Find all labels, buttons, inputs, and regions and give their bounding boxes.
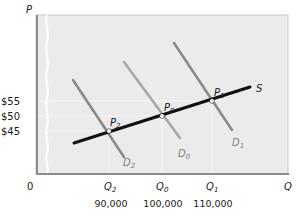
x-tick-q0: Q0 <box>156 181 169 194</box>
supply-label: S <box>256 83 263 94</box>
x-value-90000: 90,000 <box>94 198 127 209</box>
x-value-100000: 100,000 <box>143 198 182 209</box>
origin-label: 0 <box>27 181 33 192</box>
equilibrium-point-p0 <box>160 114 165 119</box>
y-axis-title: P <box>26 4 33 15</box>
y-tick-55: $55 <box>1 96 20 107</box>
x-value-110000: 110,000 <box>193 198 232 209</box>
y-tick-45: $45 <box>1 126 20 137</box>
x-axis-title: Q <box>284 181 292 192</box>
equilibrium-point-p2 <box>107 129 112 134</box>
equilibrium-point-p1 <box>210 99 215 104</box>
x-tick-q2: Q2 <box>104 181 117 194</box>
supply-demand-chart: P Q 0 $55 $50 $45 Q2 Q0 Q1 90,000 100,00… <box>0 0 305 217</box>
x-tick-q1: Q1 <box>206 181 218 194</box>
y-tick-50: $50 <box>1 111 20 122</box>
